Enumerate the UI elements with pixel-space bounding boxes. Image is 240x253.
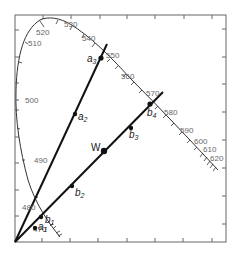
frame-ticks [15, 15, 226, 242]
wl-610: 610 [203, 145, 217, 154]
wl-590: 590 [180, 126, 194, 135]
label-b1: b1 [45, 214, 55, 226]
point-b1 [39, 215, 43, 219]
wl-580: 580 [164, 108, 178, 117]
point-a3 [98, 55, 103, 60]
line-b [15, 92, 163, 242]
wl-530: 530 [64, 20, 78, 29]
label-w: W [91, 142, 101, 153]
wl-490: 490 [34, 156, 48, 165]
wl-620: 620 [210, 154, 224, 163]
wl-540: 540 [82, 34, 96, 43]
wl-560: 560 [121, 72, 135, 81]
label-b3: b3 [129, 129, 139, 141]
point-b4 [147, 101, 152, 106]
point-a1 [33, 226, 37, 230]
label-a2: a2 [78, 111, 88, 123]
plot-frame [15, 15, 226, 242]
point-w [101, 148, 107, 154]
wl-570: 570 [146, 89, 160, 98]
point-a2 [73, 112, 77, 116]
wl-520: 520 [36, 28, 50, 37]
wl-510: 510 [28, 39, 42, 48]
chromaticity-diagram: 470 480 490 500 510 520 530 540 550 560 … [0, 0, 240, 253]
point-labels: a1 a2 a3 b1 b2 W b3 b4 [38, 53, 157, 233]
wavelength-labels: 470 480 490 500 510 520 530 540 550 560 … [22, 20, 224, 234]
label-b2: b2 [75, 187, 85, 199]
point-b2 [70, 184, 74, 188]
wl-480: 480 [22, 203, 36, 212]
wl-550: 550 [106, 51, 120, 60]
label-a3: a3 [87, 53, 97, 65]
wl-500: 500 [25, 96, 39, 105]
